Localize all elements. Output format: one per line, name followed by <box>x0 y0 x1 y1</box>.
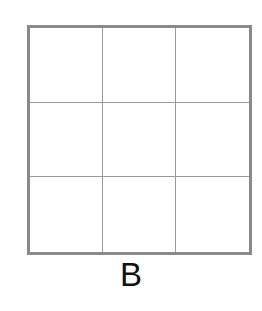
grid-cell-r2-c1 <box>30 103 103 178</box>
three-by-three-grid <box>27 25 252 255</box>
grid-cell-r3-c2 <box>103 177 176 252</box>
grid-cell-r3-c3 <box>176 177 249 252</box>
grid-cell-r2-c3 <box>176 103 249 178</box>
grid-cell-r2-c2 <box>103 103 176 178</box>
grid-cell-r1-c2 <box>103 28 176 103</box>
grid-cell-r3-c1 <box>30 177 103 252</box>
figure-label: B <box>0 258 262 292</box>
grid-cell-r1-c1 <box>30 28 103 103</box>
grid-cell-r1-c3 <box>176 28 249 103</box>
